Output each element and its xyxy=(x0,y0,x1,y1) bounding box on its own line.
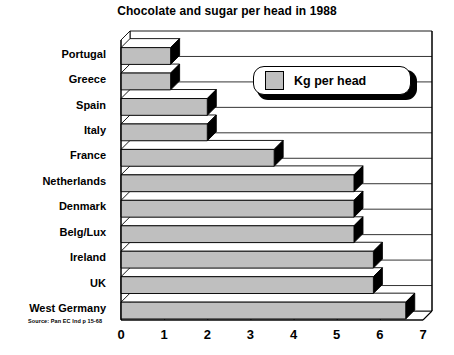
bar-france xyxy=(121,140,283,166)
x-tick-label: 5 xyxy=(325,327,349,342)
bar-top-face xyxy=(121,166,363,175)
bar-top-face xyxy=(121,217,363,226)
x-tick-label: 3 xyxy=(238,327,262,342)
legend-swatch-icon xyxy=(265,71,284,90)
bar-west-germany xyxy=(121,293,415,319)
bar-top-face xyxy=(121,293,415,302)
bar-front-face xyxy=(121,149,274,166)
bar-portugal xyxy=(121,39,180,65)
chart-container: Chocolate and sugar per head in 1988 Por… xyxy=(0,0,454,355)
bar-spain xyxy=(121,90,216,116)
bar-front-face xyxy=(121,302,406,319)
x-tick-label: 1 xyxy=(152,327,176,342)
bar-front-face xyxy=(121,251,373,268)
chart-legend: Kg per head xyxy=(253,66,411,95)
bar-top-face xyxy=(121,90,216,99)
bar-top-face xyxy=(121,242,382,251)
bar-uk xyxy=(121,268,382,294)
bar-denmark xyxy=(121,191,363,217)
bar-top-face xyxy=(121,268,382,277)
bar-greece xyxy=(121,64,180,90)
source-note: Source: Pan EC Ind p 15-68 xyxy=(28,318,102,324)
bar-netherlands xyxy=(121,166,363,192)
x-tick-label: 4 xyxy=(282,327,306,342)
bar-front-face xyxy=(121,48,171,65)
bar-top-face xyxy=(121,39,180,48)
bar-front-face xyxy=(121,226,354,243)
bar-front-face xyxy=(121,277,373,294)
x-tick-label: 7 xyxy=(411,327,435,342)
x-tick-label: 2 xyxy=(195,327,219,342)
bar-front-face xyxy=(121,99,207,116)
bar-front-face xyxy=(121,124,207,141)
bar-belg-lux xyxy=(121,217,363,243)
bar-front-face xyxy=(121,175,354,192)
legend-label: Kg per head xyxy=(294,74,366,88)
bar-top-face xyxy=(121,191,363,200)
bar-top-face xyxy=(121,115,216,124)
x-tick-label: 6 xyxy=(368,327,392,342)
x-tick-label: 0 xyxy=(109,327,133,342)
bar-ireland xyxy=(121,242,382,268)
bar-front-face xyxy=(121,200,354,217)
bar-italy xyxy=(121,115,216,141)
bar-top-face xyxy=(121,140,283,149)
plot-area xyxy=(0,0,454,355)
bar-front-face xyxy=(121,73,171,90)
bar-top-face xyxy=(121,64,180,73)
